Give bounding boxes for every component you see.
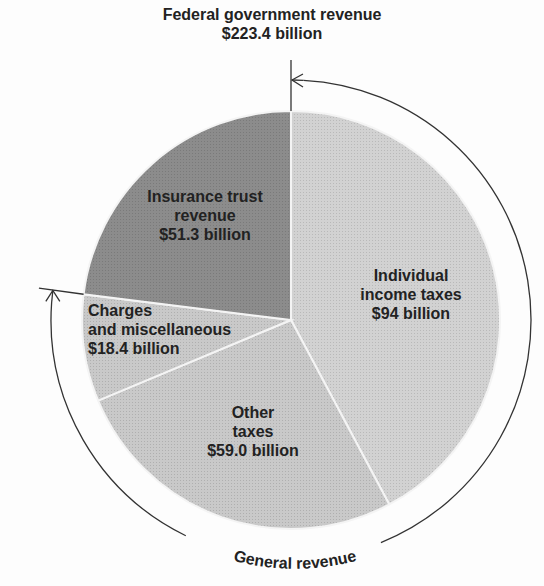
slice-label-charges: Charges and miscellaneous $18.4 billion <box>88 301 231 358</box>
label-line: $94 billion <box>360 304 461 323</box>
label-line: taxes <box>207 422 299 441</box>
chart-title: Federal government revenue <box>0 5 544 24</box>
label-line: $18.4 billion <box>88 339 231 358</box>
label-line: and miscellaneous <box>88 320 231 339</box>
label-line: Individual <box>360 266 461 285</box>
label-line: $51.3 billion <box>147 225 263 244</box>
chart-total: $223.4 billion <box>0 24 544 43</box>
label-line: $59.0 billion <box>207 441 299 460</box>
label-line: Insurance trust <box>147 187 263 206</box>
label-line: income taxes <box>360 285 461 304</box>
label-line: revenue <box>147 206 263 225</box>
slice-label-other: Other taxes $59.0 billion <box>207 403 299 460</box>
label-line: Other <box>207 403 299 422</box>
left-tick-line <box>39 288 84 294</box>
label-line: Charges <box>88 301 231 320</box>
general-revenue-label: General revenue <box>232 547 358 572</box>
slice-label-insurance: Insurance trust revenue $51.3 billion <box>147 187 263 244</box>
slice-label-individual: Individual income taxes $94 billion <box>360 266 461 323</box>
pie-chart: General revenue <box>0 0 544 586</box>
